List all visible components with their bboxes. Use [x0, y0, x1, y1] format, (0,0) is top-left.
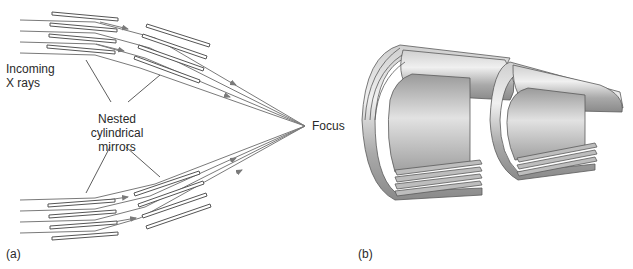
mirrors-label-line2: cylindrical	[72, 126, 162, 140]
panel-a-caption: (a)	[6, 247, 21, 261]
nested-mirrors-label: Nested cylindrical mirrors	[72, 112, 162, 154]
mirrors-label-line1: Nested	[72, 112, 162, 126]
incoming-label-line1: Incoming	[6, 62, 55, 76]
focus-label: Focus	[312, 119, 345, 133]
panel-b-cylinder-shells	[362, 45, 623, 200]
incoming-label-line2: X rays	[6, 76, 55, 90]
x-ray-paths	[20, 20, 305, 233]
panel-b-caption: (b)	[358, 247, 373, 261]
mirrors-label-line3: mirrors	[72, 140, 162, 154]
x-ray-telescope-figure: Incoming X rays Nested cylindrical mirro…	[0, 0, 633, 269]
incoming-x-rays-label: Incoming X rays	[6, 62, 55, 90]
